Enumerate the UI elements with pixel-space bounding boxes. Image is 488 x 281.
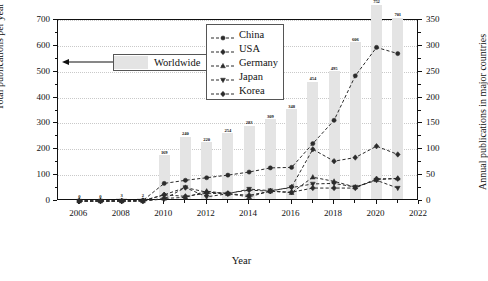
line-series-germany: [77, 175, 400, 203]
line-series-japan: [77, 179, 400, 204]
legend-item-germany[interactable]: Germany: [210, 55, 278, 69]
worldwide-color-swatch: [114, 56, 148, 69]
legend-key-icon: [210, 29, 236, 39]
y-axis-right-tick-label: 0: [426, 195, 431, 205]
y-axis-left-tick-label: 0: [26, 195, 50, 205]
bar-value-label: 752: [366, 0, 388, 4]
x-axis-tick-label: 2006: [69, 208, 87, 218]
chart-legend: ChinaUSAGermanyJapanKorea: [206, 24, 284, 100]
legend-item-label: China: [239, 29, 264, 40]
y-axis-left-title: Total publications per year: [0, 3, 5, 110]
x-axis-tick-label: 2012: [197, 208, 215, 218]
x-axis-tick-label: 2008: [112, 208, 130, 218]
y-axis-left-tick-label: 500: [26, 66, 50, 76]
y-axis-right-tick-label: 200: [426, 92, 440, 102]
legend-item-label: Germany: [239, 57, 278, 68]
x-axis-tick-label: 2020: [367, 208, 385, 218]
y-axis-right-tick-label: 350: [426, 14, 440, 24]
legend-key-icon: [210, 71, 236, 81]
y-axis-right-tick-label: 300: [426, 40, 440, 50]
x-axis-tick-label: 2018: [324, 208, 342, 218]
worldwide-annotation-label: Worldwide: [148, 57, 208, 68]
worldwide-annotation: Worldwide: [113, 54, 209, 71]
line-series-korea: [77, 176, 400, 204]
y-axis-right-tick-label: 250: [426, 66, 440, 76]
y-axis-right-tick-label: 50: [426, 169, 435, 179]
y-axis-left-tick-label: 700: [26, 14, 50, 24]
legend-key-icon: [210, 85, 236, 95]
legend-key-icon: [210, 43, 236, 53]
legend-item-label: USA: [239, 43, 260, 54]
legend-item-china[interactable]: China: [210, 27, 278, 41]
x-axis-tick-label: 2016: [282, 208, 300, 218]
y-axis-right-tick-label: 100: [426, 143, 440, 153]
x-axis-tick-label: 2010: [154, 208, 172, 218]
y-axis-left-tick-label: 400: [26, 92, 50, 102]
y-axis-left-tick-label: 600: [26, 40, 50, 50]
legend-item-label: Japan: [239, 71, 263, 82]
x-axis-tick-label: 2022: [409, 208, 427, 218]
y-axis-left-tick-label: 100: [26, 169, 50, 179]
legend-item-korea[interactable]: Korea: [210, 83, 278, 97]
worldwide-arrow-icon: [62, 55, 114, 69]
legend-item-japan[interactable]: Japan: [210, 69, 278, 83]
y-axis-right-title: Annual publications in major countries: [477, 34, 488, 190]
legend-item-label: Korea: [239, 85, 265, 96]
y-axis-left-tick-label: 300: [26, 117, 50, 127]
legend-item-usa[interactable]: USA: [210, 41, 278, 55]
x-axis-tick-label: 2014: [239, 208, 257, 218]
legend-key-icon: [210, 57, 236, 67]
y-axis-left-tick-label: 200: [26, 143, 50, 153]
line-series-usa: [77, 143, 400, 203]
y-axis-left-tick: [53, 200, 57, 201]
y-axis-right-tick-label: 150: [426, 117, 440, 127]
bar-value-label: 701: [387, 12, 409, 17]
x-axis-title: Year: [0, 255, 483, 266]
